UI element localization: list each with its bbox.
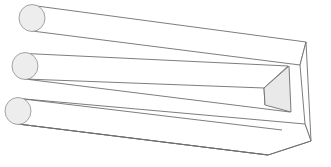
drawing-canvas: [0, 0, 331, 167]
impossible-trident-figure: [0, 0, 331, 167]
middle-prong-cap-icon: [12, 53, 38, 80]
top-prong-cap-icon: [19, 5, 45, 32]
bottom-prong-cap-icon: [5, 98, 31, 125]
block-lower-face: [18, 99, 311, 156]
